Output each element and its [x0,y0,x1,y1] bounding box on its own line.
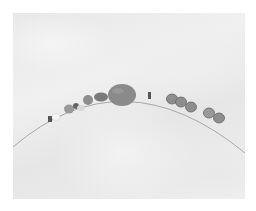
bead [186,102,197,112]
bead [214,113,225,123]
bead [94,93,108,102]
necklace-illustration [13,13,245,199]
spacer-bead-right [148,92,151,99]
bead [64,105,74,114]
necklace-photo [13,13,245,199]
center-bead [108,84,136,106]
bead [176,97,187,107]
bead [204,108,215,118]
bead [77,105,85,111]
bead [83,95,93,105]
spacer-bead-left [48,114,60,123]
